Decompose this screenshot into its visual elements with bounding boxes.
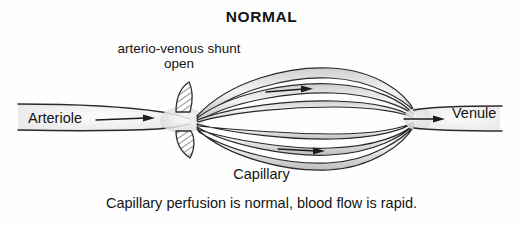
sphincter-wedge-lower [176,131,194,158]
shunt-label-line-1: arterio-venous shunt [117,41,240,56]
capillary-bed [197,68,415,170]
label-venule: Venule [452,105,496,121]
figure-caption: Capillary perfusion is normal, blood flo… [0,195,523,211]
label-arterio-venous-shunt: arterio-venous shunt open [103,41,255,71]
label-capillary: Capillary [0,166,523,182]
capillary-vessel [197,122,414,139]
label-arteriole: Arteriole [28,110,82,126]
sphincter-wedge-upper [176,82,192,112]
figure-title: NORMAL [0,8,523,25]
figure-root: NORMAL arterio-venous shunt open Arterio… [0,0,523,227]
shunt-label-line-2: open [103,56,255,71]
